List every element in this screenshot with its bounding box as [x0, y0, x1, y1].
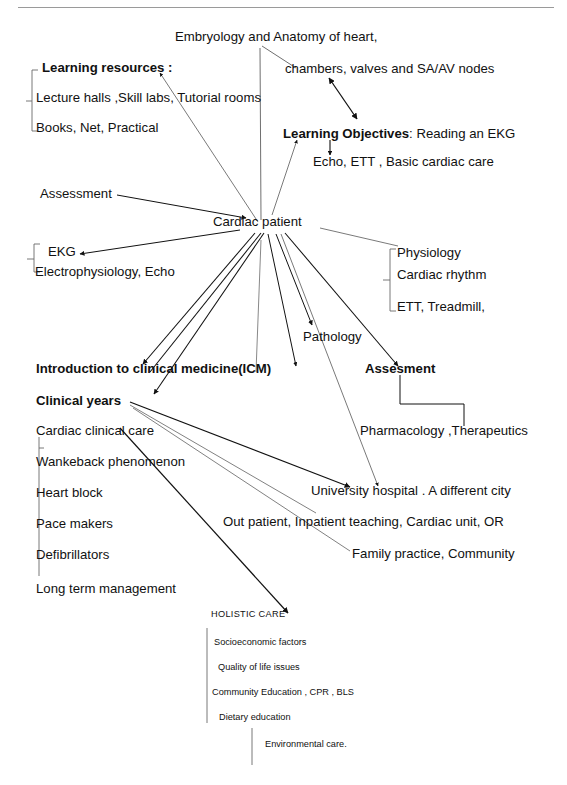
edge-center-vertical-to-icm: [256, 240, 261, 372]
node-cardiac-clinical-care: Cardiac clinical care: [36, 424, 154, 438]
node-quality-of-life-issues: Quality of life issues: [218, 663, 300, 673]
node-community-education: Community Education , CPR , BLS: [212, 688, 354, 698]
node-learning-objectives-label: Learning Objectives: [283, 126, 409, 141]
edge-center-to-ekg: [80, 230, 240, 254]
edge-center-to-university-hospital: [281, 234, 378, 486]
node-dietary-education: Dietary education: [219, 713, 291, 723]
edge-center-to-icm-marker: [268, 234, 296, 366]
edge-center-to-icm-b: [150, 233, 261, 372]
node-physiology: Physiology: [397, 246, 461, 260]
edge-clinical-to-family-practice: [133, 408, 350, 551]
edge-embryology-to-center: [260, 48, 261, 220]
node-pace-makers: Pace makers: [36, 517, 113, 531]
node-learning-resources-heading: Learning resources :: [42, 61, 172, 75]
edge-center-to-assesment-right: [285, 233, 398, 366]
node-chambers-valves: chambers, valves and SA/AV nodes: [285, 62, 494, 76]
bracket-physiology: [390, 249, 396, 311]
node-introduction-clinical-medicine: Introduction to clinical medicine(ICM): [36, 362, 271, 376]
node-embryology-anatomy: Embryology and Anatomy of heart,: [175, 30, 377, 44]
edge-assesment-to-pharmacology: [400, 375, 464, 426]
edge-clinical-years-to-university-hospital: [130, 402, 350, 487]
node-books-net-practical: Books, Net, Practical: [36, 121, 158, 135]
node-ekg: EKG: [48, 245, 76, 259]
edge-center-to-learning-objectives: [272, 140, 297, 215]
node-holistic-care: HOLISTIC CARE: [211, 610, 285, 620]
node-defibrillators: Defibrillators: [36, 548, 109, 562]
node-learning-objectives-detail: : Reading an EKG: [409, 126, 515, 141]
node-echo-ett-basic-cardiac-care: Echo, ETT , Basic cardiac care: [313, 155, 494, 169]
edge-center-to-pathology: [276, 234, 312, 325]
node-cardiac-patient-center: Cardiac patient: [213, 215, 302, 229]
edge-center-to-physiology: [320, 228, 398, 246]
node-pathology: Pathology: [303, 330, 362, 344]
node-family-practice-community: Family practice, Community: [352, 547, 515, 561]
node-long-term-management: Long term management: [36, 582, 176, 596]
node-out-patient-inpatient: Out patient, Inpatient teaching, Cardiac…: [223, 515, 504, 529]
node-pharmacology-therapeutics: Pharmacology ,Therapeutics: [360, 424, 528, 438]
node-university-hospital: University hospital . A different city: [311, 484, 511, 498]
node-assesment-right: Assesment: [365, 362, 435, 376]
node-heart-block: Heart block: [36, 486, 103, 500]
node-ett-treadmill: ETT, Treadmill,: [397, 300, 485, 314]
edge-chambers-learning-objectives: [329, 78, 357, 119]
node-electrophysiology-echo: Electrophysiology, Echo: [35, 265, 175, 279]
node-environmental-care: Environmental care.: [265, 740, 347, 750]
node-wankeback-phenomenon: Wankeback phenomenon: [36, 455, 185, 469]
node-cardiac-rhythm: Cardiac rhythm: [397, 268, 486, 282]
node-learning-objectives: Learning Objectives: Reading an EKG: [283, 125, 515, 142]
node-lecture-halls: Lecture halls ,Skill labs, Tutorial room…: [36, 91, 261, 105]
diagram-canvas: Embryology and Anatomy of heart, chamber…: [0, 0, 567, 785]
node-clinical-years: Clinical years: [36, 394, 121, 408]
edge-center-to-icm-a: [143, 233, 255, 364]
top-divider-rule: [18, 7, 554, 8]
node-assessment-left: Assessment: [40, 187, 112, 201]
node-socioeconomic-factors: Socioeconomic factors: [214, 638, 306, 648]
